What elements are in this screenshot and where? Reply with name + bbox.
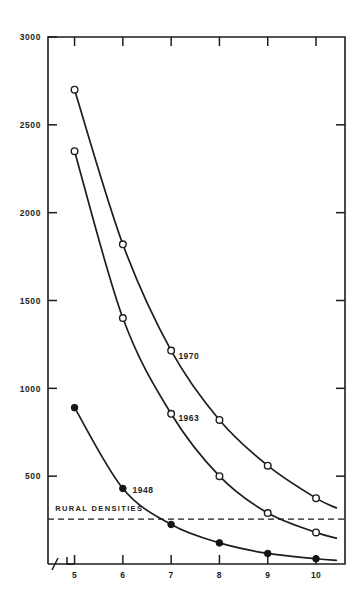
data-point-1970-7 (168, 347, 175, 354)
data-point-1963-5 (71, 148, 78, 155)
series-label-1963: 1963 (178, 413, 199, 423)
data-point-1948-7 (168, 521, 175, 528)
data-point-1963-7 (168, 411, 175, 418)
y-axis-tick-label: 3000 (20, 32, 41, 42)
series-label-1970: 1970 (178, 351, 199, 361)
data-point-1963-6 (120, 315, 127, 322)
y-axis-tick-label: 2500 (20, 120, 41, 130)
data-point-1970-10 (313, 495, 320, 502)
y-axis-tick-label: 2000 (20, 208, 41, 218)
data-point-1948-10 (313, 555, 320, 562)
x-axis-tick-label: 8 (217, 570, 222, 580)
line-chart-svg: 5001000150020002500300056789101970196319… (0, 0, 361, 603)
data-point-1948-5 (71, 404, 78, 411)
x-axis-tick-label: 10 (311, 570, 321, 580)
data-point-1948-9 (264, 550, 271, 557)
data-point-1970-9 (264, 462, 271, 469)
chart-figure: 5001000150020002500300056789101970196319… (0, 0, 361, 603)
x-axis-tick-label: 9 (265, 570, 270, 580)
plot-frame (48, 37, 345, 564)
data-point-1948-8 (216, 540, 223, 547)
series-curve-1948 (75, 408, 337, 561)
data-point-1963-10 (313, 529, 320, 536)
x-axis-tick-label: 6 (120, 570, 125, 580)
y-axis-tick-label: 1500 (20, 296, 41, 306)
data-point-1970-8 (216, 417, 223, 424)
rural-densities-label: RURAL DENSITIES (55, 504, 143, 513)
data-point-1963-8 (216, 473, 223, 480)
y-axis-tick-label: 1000 (20, 384, 41, 394)
y-axis-tick-label: 500 (25, 471, 41, 481)
series-curve-1963 (75, 151, 337, 538)
data-point-1970-6 (120, 241, 127, 248)
data-point-1970-5 (71, 86, 78, 93)
data-point-1963-9 (264, 510, 271, 517)
x-axis-tick-label: 5 (72, 570, 77, 580)
series-curve-1970 (75, 90, 337, 508)
data-point-1948-6 (120, 485, 127, 492)
x-axis-tick-label: 7 (169, 570, 174, 580)
series-label-1948: 1948 (133, 485, 154, 495)
